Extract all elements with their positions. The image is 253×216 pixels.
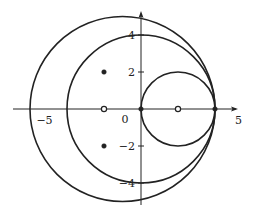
filled-point-origin (139, 107, 144, 112)
y-tick-label: 2 (128, 66, 135, 79)
open-point-right (175, 106, 180, 111)
diagram-canvas: −5542−2−40 (0, 0, 253, 216)
filled-point-lower (102, 144, 107, 149)
filled-point-upper (102, 70, 107, 75)
y-tick-label: −2 (119, 140, 135, 153)
x-tick-label: 5 (235, 114, 242, 127)
origin-label: 0 (122, 113, 129, 126)
y-tick-label: −4 (119, 177, 135, 190)
open-point-left (101, 106, 106, 111)
axes (13, 11, 238, 205)
filled-point-four (213, 107, 218, 112)
x-tick-label: −5 (36, 114, 52, 127)
y-tick-label: 4 (128, 29, 135, 42)
